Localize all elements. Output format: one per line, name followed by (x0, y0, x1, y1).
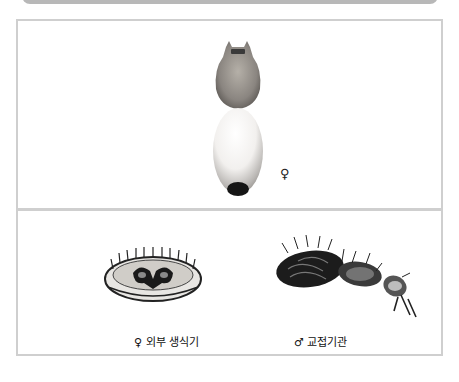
header-bar (22, 0, 438, 4)
spider-dorsal-illustration (198, 39, 278, 209)
female-symbol: ♀ (280, 166, 290, 181)
figure-frame: ♀ (16, 19, 443, 356)
genitalia-panel: ♀ 외부 생식기 ♂ 교접기관 (18, 211, 441, 356)
palp-illustration (268, 231, 428, 326)
female-epigyne-caption: ♀ 외부 생식기 (134, 333, 199, 349)
epigyne-illustration (98, 239, 208, 309)
specimen-panel: ♀ (18, 21, 441, 208)
male-palp-caption: ♂ 교접기관 (294, 333, 347, 349)
